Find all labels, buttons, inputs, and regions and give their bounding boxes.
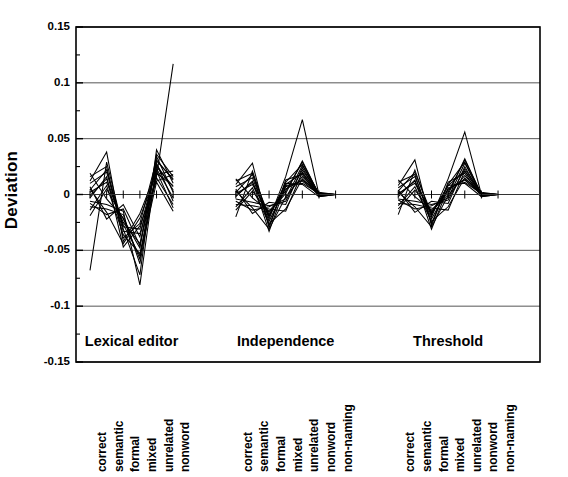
y-tick-label: 0.15 bbox=[20, 20, 70, 32]
series-layer bbox=[90, 64, 498, 285]
y-axis-title: Deviation bbox=[2, 120, 22, 260]
category-label: formal bbox=[274, 436, 288, 472]
chart-figure: Deviation 0.150.10.050-0.05-0.1-0.15 Lex… bbox=[0, 0, 568, 477]
category-label: correct bbox=[241, 432, 255, 472]
group-label: Independence bbox=[206, 333, 366, 349]
category-label: nonword bbox=[324, 422, 338, 472]
category-label: nonword bbox=[178, 422, 192, 472]
category-label: mixed bbox=[145, 438, 159, 472]
axis-frame-layer bbox=[76, 27, 540, 362]
category-label: nonword bbox=[486, 422, 500, 472]
category-label: semantic bbox=[112, 421, 126, 472]
category-label: unrelated bbox=[470, 419, 484, 472]
group-label: Lexical editor bbox=[52, 333, 212, 349]
category-label: correct bbox=[403, 432, 417, 472]
y-tick-label: 0 bbox=[20, 188, 70, 200]
y-tick-label: -0.15 bbox=[20, 355, 70, 367]
group-label: Threshold bbox=[368, 333, 528, 349]
category-label: semantic bbox=[420, 421, 434, 472]
category-label: unrelated bbox=[162, 419, 176, 472]
category-label: unrelated bbox=[307, 419, 321, 472]
category-label: semantic bbox=[257, 421, 271, 472]
category-label: non-naming bbox=[503, 404, 517, 472]
y-tick-label: 0.05 bbox=[20, 132, 70, 144]
chart-canvas bbox=[0, 0, 568, 477]
category-label: formal bbox=[437, 436, 451, 472]
series-line bbox=[90, 154, 173, 248]
category-label: mixed bbox=[453, 438, 467, 472]
y-tick-label: -0.05 bbox=[20, 243, 70, 255]
category-label: correct bbox=[95, 432, 109, 472]
category-label: non-naming bbox=[341, 404, 355, 472]
category-label: formal bbox=[128, 436, 142, 472]
y-tick-label: 0.1 bbox=[20, 76, 70, 88]
category-label: mixed bbox=[291, 438, 305, 472]
y-tick-label: -0.1 bbox=[20, 299, 70, 311]
